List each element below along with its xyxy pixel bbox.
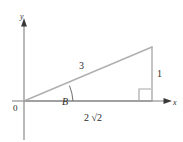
x-axis-arrowhead	[164, 98, 173, 104]
origin-label: 0	[13, 104, 18, 113]
x-axis-label: x	[173, 99, 177, 107]
angle-arc-b	[70, 86, 74, 101]
right-angle-marker	[139, 89, 151, 101]
y-axis-label: y	[20, 13, 24, 21]
angle-b-label: B	[62, 97, 68, 107]
triangle-diagram: y x 0 B 3 1 2 √2	[0, 0, 183, 142]
hypotenuse-length-label: 3	[79, 61, 84, 71]
opposite-length-label: 1	[157, 69, 162, 79]
adjacent-length-label: 2 √2	[84, 113, 102, 123]
triangle-hypotenuse	[24, 47, 152, 101]
